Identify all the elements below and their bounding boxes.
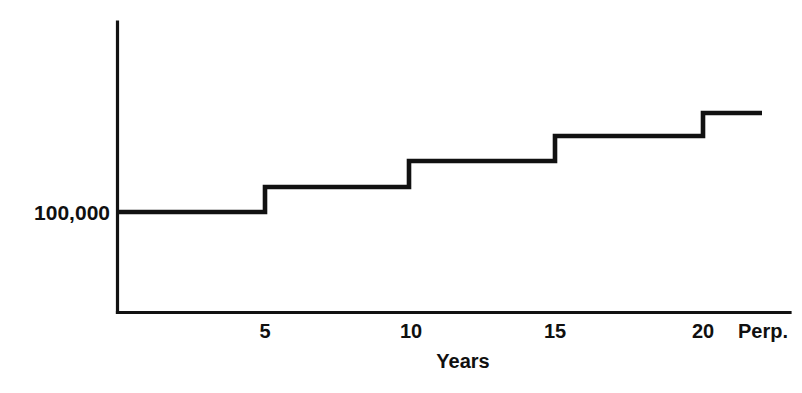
step-chart: 100,000 5 10 15 20 Perp. Years	[0, 0, 802, 393]
x-tick-label-perpetuity: Perp.	[738, 320, 788, 342]
y-axis-value-label: 100,000	[34, 201, 110, 224]
x-tick-label-20: 20	[692, 320, 714, 342]
x-tick-label-15: 15	[544, 320, 566, 342]
x-tick-label-10: 10	[400, 320, 422, 342]
screenshot-root: 100,000 5 10 15 20 Perp. Years	[0, 0, 802, 393]
x-axis-title: Years	[436, 350, 489, 372]
chart-canvas: 100,000 5 10 15 20 Perp. Years	[0, 0, 802, 393]
x-tick-label-5: 5	[259, 320, 270, 342]
